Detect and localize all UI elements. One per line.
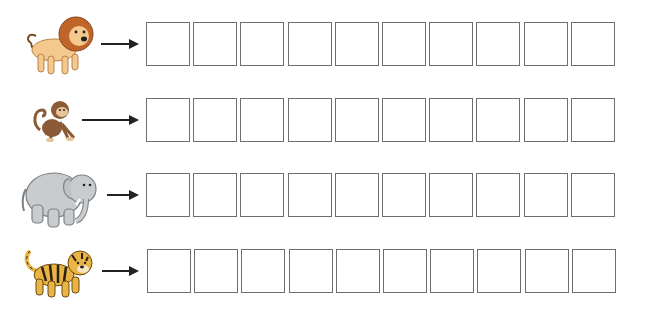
answer-box[interactable] (240, 173, 284, 217)
answer-box[interactable] (382, 22, 426, 66)
answer-box[interactable] (193, 98, 237, 142)
answer-box[interactable] (194, 249, 238, 293)
tiger-icon (20, 247, 96, 301)
answer-box[interactable] (382, 98, 426, 142)
answer-box[interactable] (571, 98, 615, 142)
answer-box[interactable] (241, 249, 285, 293)
arrow-icon (82, 115, 139, 125)
answer-box[interactable] (147, 249, 191, 293)
answer-box[interactable] (336, 249, 380, 293)
answer-box[interactable] (476, 98, 520, 142)
answer-box[interactable] (146, 22, 190, 66)
answer-box[interactable] (524, 22, 568, 66)
answer-box[interactable] (524, 98, 568, 142)
answer-box[interactable] (335, 22, 379, 66)
answer-boxes (147, 249, 616, 293)
answer-box[interactable] (146, 98, 190, 142)
answer-box[interactable] (571, 22, 615, 66)
answer-box[interactable] (572, 249, 616, 293)
row-monkey: Monkey (0, 82, 645, 158)
answer-box[interactable] (476, 173, 520, 217)
answer-box[interactable] (288, 98, 332, 142)
answer-boxes (146, 22, 615, 66)
answer-box[interactable] (476, 22, 520, 66)
row-lion: Lion (0, 6, 645, 82)
answer-box[interactable] (524, 173, 568, 217)
answer-box[interactable] (240, 22, 284, 66)
row-elephant: Elephant (0, 157, 645, 233)
answer-box[interactable] (525, 249, 569, 293)
answer-box[interactable] (288, 173, 332, 217)
monkey-icon (32, 100, 78, 142)
answer-box[interactable] (335, 173, 379, 217)
arrow-icon (102, 266, 139, 276)
answer-box[interactable] (477, 249, 521, 293)
row-tiger: Tiger (0, 233, 645, 309)
answer-box[interactable] (193, 173, 237, 217)
answer-box[interactable] (240, 98, 284, 142)
answer-box[interactable] (383, 249, 427, 293)
arrow-icon (107, 190, 139, 200)
arrow-icon (101, 39, 139, 49)
answer-box[interactable] (429, 22, 473, 66)
answer-box[interactable] (146, 173, 190, 217)
answer-boxes (146, 173, 615, 217)
answer-box[interactable] (430, 249, 474, 293)
answer-box[interactable] (193, 22, 237, 66)
answer-box[interactable] (382, 173, 426, 217)
answer-box[interactable] (288, 22, 332, 66)
answer-box[interactable] (289, 249, 333, 293)
answer-box[interactable] (429, 98, 473, 142)
lion-icon (24, 14, 96, 78)
answer-box[interactable] (335, 98, 379, 142)
answer-boxes (146, 98, 615, 142)
elephant-icon (20, 165, 102, 231)
answer-box[interactable] (571, 173, 615, 217)
answer-box[interactable] (429, 173, 473, 217)
